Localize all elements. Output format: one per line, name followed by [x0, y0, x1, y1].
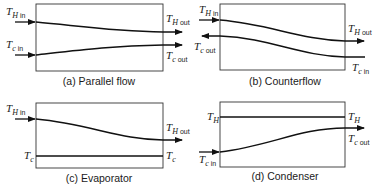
cold-stream-curve — [36, 45, 182, 55]
hot-stream-curve — [36, 119, 182, 140]
label-t-c-in: Tcin — [199, 153, 216, 168]
panel-parallel-flow: THin Tcin THout Tcout (a) Parallel flow — [6, 4, 190, 87]
cold-stream-curve — [202, 36, 365, 57]
cold-stream-curve — [220, 128, 364, 152]
label-t-h-in: THin — [199, 3, 218, 18]
caption-parallel-flow: (a) Parallel flow — [63, 75, 136, 87]
panel-counterflow: THin Tcout THout Tcin (b) Counterflow — [194, 3, 372, 87]
panel-evaporator: THin THout Tc Tc (c) Evaporator — [6, 102, 190, 184]
panel-condenser: TH TH Tcout Tcin (d) Condenser — [199, 102, 369, 182]
label-t-c-in: Tcin — [6, 38, 23, 53]
caption-evaporator: (c) Evaporator — [66, 172, 133, 184]
label-t-c-left: Tc — [24, 149, 34, 164]
hot-stream-curve — [36, 22, 182, 32]
label-t-h-in: THin — [6, 5, 25, 20]
label-t-c-out: Tcout — [348, 132, 369, 147]
label-t-h-left: TH — [207, 110, 220, 125]
label-t-c-out: Tcout — [194, 40, 215, 55]
heat-exchanger-diagram: THin Tcin THout Tcout (a) Parallel flow … — [0, 0, 377, 192]
label-t-h-out: THout — [166, 121, 190, 136]
label-t-h-out: THout — [166, 12, 190, 27]
label-t-c-in: Tcin — [352, 61, 369, 76]
exchanger-box — [220, 102, 345, 167]
exchanger-box — [36, 103, 163, 168]
label-t-h-out: THout — [348, 22, 372, 37]
label-t-h-in: THin — [6, 102, 25, 117]
caption-counterflow: (b) Counterflow — [249, 75, 321, 87]
label-t-h-right: TH — [348, 110, 361, 125]
caption-condenser: (d) Condenser — [251, 170, 319, 182]
exchanger-box — [36, 4, 163, 71]
label-t-c-right: Tc — [166, 149, 176, 164]
label-t-c-out: Tcout — [166, 49, 187, 64]
